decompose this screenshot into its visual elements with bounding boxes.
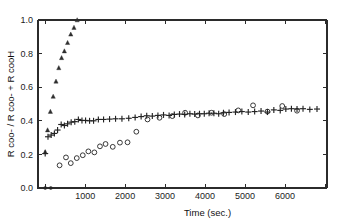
marker-triangle xyxy=(69,32,73,36)
y-tick-label: 0.4 xyxy=(20,116,33,126)
y-tick-label: 0.8 xyxy=(20,49,33,59)
marker-circle xyxy=(103,142,108,147)
marker-circle xyxy=(134,129,139,134)
y-tick-label: 1.0 xyxy=(20,15,33,25)
marker-circle xyxy=(64,155,69,160)
marker-triangle xyxy=(65,40,69,44)
scatter-plot: 1000200030004000500060000.00.20.40.60.81… xyxy=(0,0,344,223)
y-tick-label: 0.6 xyxy=(20,82,33,92)
marker-circle xyxy=(118,140,123,145)
x-tick-label: 1000 xyxy=(75,191,95,201)
series-plus-series xyxy=(42,106,320,157)
marker-circle xyxy=(125,140,130,145)
chart-figure: 1000200030004000500060000.00.20.40.60.81… xyxy=(0,0,344,223)
marker-circle xyxy=(57,163,62,168)
marker-circle xyxy=(74,156,79,161)
x-tick-label: 2000 xyxy=(115,191,135,201)
x-tick-label: 5000 xyxy=(235,191,255,201)
marker-triangle xyxy=(62,49,66,53)
marker-dot xyxy=(49,186,53,190)
marker-triangle xyxy=(59,56,63,60)
x-axis-title: Time (sec.) xyxy=(184,207,231,218)
marker-triangle xyxy=(72,25,76,29)
y-axis-title: R coo- / R coo- + R cooH xyxy=(5,51,16,158)
marker-circle xyxy=(251,103,256,108)
series-triangle-series xyxy=(43,18,79,154)
series-open-circle-series xyxy=(57,103,299,168)
y-tick-label: 0.2 xyxy=(20,150,33,160)
marker-circle xyxy=(145,117,150,122)
marker-triangle xyxy=(57,66,61,70)
marker-circle xyxy=(98,144,103,149)
marker-circle xyxy=(86,149,91,154)
x-tick-label: 3000 xyxy=(155,191,175,201)
marker-triangle xyxy=(45,128,49,132)
marker-circle xyxy=(110,144,115,149)
marker-triangle xyxy=(54,79,58,83)
marker-circle xyxy=(68,161,73,166)
marker-triangle xyxy=(51,94,55,98)
marker-circle xyxy=(280,104,285,109)
y-tick-label: 0.0 xyxy=(20,183,33,193)
marker-dot xyxy=(43,186,47,190)
x-tick-label: 4000 xyxy=(195,191,215,201)
marker-circle xyxy=(92,150,97,155)
marker-circle xyxy=(80,153,85,158)
x-tick-label: 6000 xyxy=(275,191,295,201)
marker-triangle xyxy=(48,109,52,113)
